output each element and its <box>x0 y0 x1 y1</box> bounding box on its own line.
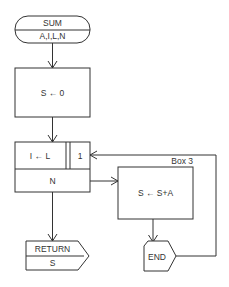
end-label: END <box>148 252 166 262</box>
return-terminator: RETURN S <box>26 241 89 270</box>
loop-box: I ← L 1 N <box>15 142 90 192</box>
arrow-body-to-end <box>149 219 158 242</box>
loop-step: 1 <box>78 151 83 161</box>
body-label: S ← S+A <box>138 188 174 198</box>
start-terminator: SUM A,I,L,N <box>15 16 90 43</box>
body-process-box: Box 3 S ← S+A <box>118 156 193 219</box>
arrow-loop-to-return <box>48 192 57 241</box>
init-process-box: S ← 0 <box>15 68 90 117</box>
loop-assign: I ← L <box>30 151 51 161</box>
return-keyword: RETURN <box>35 244 70 254</box>
loop-limit: N <box>49 176 55 186</box>
arrow-init-to-loop <box>48 117 57 142</box>
box-label: Box 3 <box>171 156 193 166</box>
init-label: S ← 0 <box>41 88 65 98</box>
arrow-loop-to-body <box>90 177 118 185</box>
flowchart: SUM A,I,L,N S ← 0 I ← L 1 N Box 3 S ← S+… <box>0 0 229 287</box>
loop-end-connector: END <box>144 241 176 271</box>
function-params: A,I,L,N <box>40 31 66 41</box>
return-value: S <box>50 258 56 268</box>
function-name: SUM <box>43 18 62 28</box>
arrow-start-to-init <box>48 43 57 68</box>
